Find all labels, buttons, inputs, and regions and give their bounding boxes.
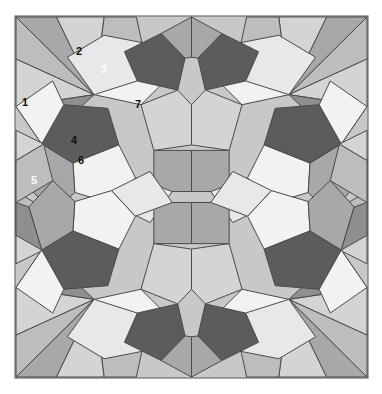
tiling-diagram: 1234567 [0, 0, 382, 394]
tile-center-square-bottom-left [154, 202, 192, 243]
tile-center-square-bottom-right [192, 202, 230, 243]
tiling-figure-root: 1234567 [0, 0, 382, 394]
